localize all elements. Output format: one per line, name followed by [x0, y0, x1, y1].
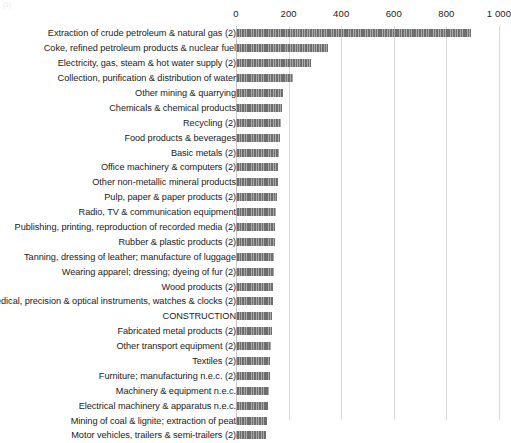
bar-row: Wearing apparel; dressing; dyeing of fur…: [0, 264, 507, 279]
bar-track: [236, 223, 275, 231]
bar-row: Electrical machinery & apparatus n.e.c.: [0, 398, 507, 413]
bar: [236, 193, 277, 201]
bar-track: [236, 89, 283, 97]
bar: [236, 253, 274, 261]
bar-track: [236, 372, 270, 380]
category-label: Motor vehicles, trailers & semi-trailers…: [71, 430, 236, 441]
bar-track: [236, 253, 274, 261]
bar-track: [236, 238, 275, 246]
category-label: Food products & beverages: [124, 132, 236, 143]
category-label: Rubber & plastic products (2): [118, 236, 236, 247]
bar-track: [236, 312, 272, 320]
bar: [236, 238, 275, 246]
bar: [236, 431, 266, 439]
category-label: CONSTRUCTION: [163, 311, 236, 322]
bar-row: Other mining & quarrying: [0, 86, 507, 101]
category-label: Wood products (2): [161, 281, 236, 292]
bar: [236, 297, 273, 305]
bar-track: [236, 193, 277, 201]
bar-track: [236, 357, 270, 365]
bar-track: [236, 268, 274, 276]
category-label: Wearing apparel; dressing; dyeing of fur…: [62, 266, 236, 277]
x-axis-tick-2: 400: [333, 8, 349, 19]
bar-row: Coke, refined petroleum products & nucle…: [0, 41, 507, 56]
bar-track: [236, 402, 268, 410]
bar: [236, 402, 268, 410]
category-label: Electrical machinery & apparatus n.e.c.: [79, 400, 236, 411]
bar: [236, 29, 471, 37]
bar-track: [236, 74, 293, 82]
bar-row: Rubber & plastic products (2): [0, 234, 507, 249]
x-axis-tick-5: 1 000: [487, 8, 511, 19]
bar: [236, 327, 272, 335]
bar: [236, 44, 328, 52]
bar-track: [236, 104, 282, 112]
bar-row: Food products & beverages: [0, 130, 507, 145]
category-label: Basic metals (2): [171, 147, 236, 158]
bar: [236, 372, 270, 380]
plot-area: Extraction of crude petroleum & natural …: [0, 26, 507, 420]
bar-row: Furniture; manufacturing n.e.c. (2): [0, 368, 507, 383]
bar-row: Tanning, dressing of leather; manufactur…: [0, 249, 507, 264]
bar-row: Publishing, printing, reproduction of re…: [0, 220, 507, 235]
category-label: Tanning, dressing of leather; manufactur…: [24, 251, 236, 262]
bar-rows: Extraction of crude petroleum & natural …: [0, 26, 507, 443]
bar-row: Other non-metallic mineral products: [0, 175, 507, 190]
bar-track: [236, 431, 266, 439]
bar: [236, 74, 293, 82]
bar-row: Fabricated metal products (2): [0, 324, 507, 339]
bar-track: [236, 297, 273, 305]
category-label: Radio, TV & communication equipment: [79, 207, 236, 218]
category-label: Furniture; manufacturing n.e.c. (2): [99, 370, 236, 381]
category-label: Mining of coal & lignite; extraction of …: [71, 415, 236, 426]
bar-track: [236, 208, 276, 216]
bar: [236, 104, 282, 112]
bar-row: Motor vehicles, trailers & semi-trailers…: [0, 428, 507, 443]
bar: [236, 312, 272, 320]
bar-row: Basic metals (2): [0, 145, 507, 160]
category-label: Other mining & quarrying: [135, 88, 236, 99]
bar-row: Machinery & equipment n.e.c.: [0, 383, 507, 398]
bar-row: CONSTRUCTION: [0, 309, 507, 324]
bar: [236, 387, 269, 395]
bar: [236, 178, 278, 186]
category-label: Chemicals & chemical products: [109, 102, 236, 113]
category-label: Collection, purification & distribution …: [58, 73, 236, 84]
bar-row: Recycling (2): [0, 115, 507, 130]
category-label: Other transport equipment (2): [116, 341, 236, 352]
x-axis-tick-1: 200: [281, 8, 297, 19]
bar: [236, 342, 271, 350]
bar: [236, 149, 279, 157]
category-label: Fabricated metal products (2): [117, 326, 236, 337]
bar-row: Collection, purification & distribution …: [0, 71, 507, 86]
bar: [236, 89, 283, 97]
x-axis-tick-0: 0: [233, 8, 238, 19]
bar-track: [236, 342, 271, 350]
bar-track: [236, 134, 280, 142]
bar: [236, 134, 280, 142]
bar: [236, 59, 311, 67]
x-axis-tick-3: 600: [386, 8, 402, 19]
bar-row: Radio, TV & communication equipment: [0, 205, 507, 220]
bar-track: [236, 119, 281, 127]
bar: [236, 268, 274, 276]
bar-row: Extraction of crude petroleum & natural …: [0, 26, 507, 41]
bar-track: [236, 163, 278, 171]
bar: [236, 417, 267, 425]
bar-row: Chemicals & chemical products: [0, 100, 507, 115]
category-label: Coke, refined petroleum products & nucle…: [44, 43, 236, 54]
bar: [236, 223, 275, 231]
bar: [236, 208, 276, 216]
x-axis-tick-labels: 02004006008001 000: [0, 0, 507, 26]
bar: [236, 119, 281, 127]
category-label: Pulp, paper & paper products (2): [104, 192, 236, 203]
bar-row: Medical, precision & optical instruments…: [0, 294, 507, 309]
bar-row: Mining of coal & lignite; extraction of …: [0, 413, 507, 428]
x-axis-tick-4: 800: [438, 8, 454, 19]
bar: [236, 357, 270, 365]
bar-track: [236, 387, 269, 395]
category-label: Recycling (2): [183, 117, 236, 128]
bar-track: [236, 59, 311, 67]
bar-track: [236, 149, 279, 157]
